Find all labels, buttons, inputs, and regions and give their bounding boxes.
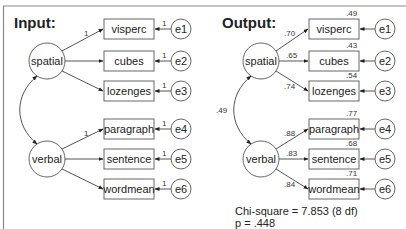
error-weight: 1 bbox=[162, 149, 167, 158]
latent-verbal: verbal bbox=[243, 141, 279, 177]
observed-wordmean: .71 wordmean e6 bbox=[307, 169, 395, 199]
r-squared-value: .71 bbox=[346, 169, 358, 178]
r-squared-value: .77 bbox=[346, 109, 358, 118]
observed-label: wordmean bbox=[102, 183, 154, 195]
latent-label: verbal bbox=[246, 153, 276, 165]
error-label: e2 bbox=[379, 55, 391, 67]
error-label: e3 bbox=[175, 85, 187, 97]
error-weight: 1 bbox=[162, 81, 167, 90]
input-title: Input: bbox=[14, 14, 56, 31]
latent-label: spatial bbox=[31, 55, 63, 67]
error-weight: 1 bbox=[162, 51, 167, 60]
latent-spatial: spatial bbox=[243, 43, 279, 79]
error-label: e3 bbox=[379, 85, 391, 97]
observed-sentence: .68 sentence e5 bbox=[309, 139, 395, 169]
output-panel: Output: spatial verbal .49 .70 .65 .74 .… bbox=[216, 9, 395, 229]
r-squared-value: .54 bbox=[346, 71, 358, 80]
observed-lozenges: lozenges 1 e3 bbox=[104, 81, 191, 101]
r-squared-value: .68 bbox=[346, 139, 358, 148]
latent-label: verbal bbox=[32, 153, 62, 165]
loading-arrow bbox=[62, 169, 103, 189]
observed-label: paragraph bbox=[309, 123, 359, 135]
output-title: Output: bbox=[222, 14, 276, 31]
observed-label: cubes bbox=[114, 55, 144, 67]
loading-value: 1 bbox=[84, 29, 89, 38]
error-weight: 1 bbox=[162, 19, 167, 28]
loading-value: .83 bbox=[286, 149, 298, 158]
loading-value: .84 bbox=[284, 180, 296, 189]
covariance-value: .49 bbox=[216, 106, 228, 115]
error-label: e1 bbox=[175, 23, 187, 35]
observed-label: visperc bbox=[112, 23, 147, 35]
error-label: e4 bbox=[379, 123, 391, 135]
observed-label: sentence bbox=[312, 153, 357, 165]
observed-visperc: visperc 1 e1 bbox=[104, 19, 191, 39]
observed-label: sentence bbox=[107, 153, 152, 165]
latent-verbal: verbal bbox=[29, 141, 65, 177]
sem-diagram-figure: Input: spatial verbal 1 1 visperc 1 e bbox=[0, 0, 406, 229]
p-value-stat: p = .448 bbox=[235, 217, 275, 229]
input-panel: Input: spatial verbal 1 1 visperc 1 e bbox=[14, 14, 191, 199]
observed-visperc: .49 visperc e1 bbox=[309, 9, 395, 39]
loading-value: 1 bbox=[84, 129, 89, 138]
loading-value: .70 bbox=[284, 29, 296, 38]
observed-paragraph: .77 paragraph e4 bbox=[309, 109, 395, 139]
loading-value: .88 bbox=[284, 129, 296, 138]
observed-wordmean: wordmean 1 e6 bbox=[102, 179, 191, 199]
observed-lozenges: .54 lozenges e3 bbox=[309, 71, 395, 101]
r-squared-value: .49 bbox=[346, 9, 358, 18]
observed-label: paragraph bbox=[104, 123, 154, 135]
observed-paragraph: paragraph 1 e4 bbox=[104, 119, 191, 139]
latent-spatial: spatial bbox=[29, 43, 65, 79]
covariance-arrow bbox=[20, 76, 37, 144]
error-weight: 1 bbox=[162, 119, 167, 128]
observed-label: lozenges bbox=[107, 85, 152, 97]
observed-label: cubes bbox=[319, 55, 349, 67]
loading-value: .65 bbox=[286, 51, 298, 60]
observed-cubes: cubes 1 e2 bbox=[104, 51, 191, 71]
loading-arrow bbox=[62, 29, 103, 51]
observed-label: wordmean bbox=[307, 183, 359, 195]
error-label: e4 bbox=[175, 123, 187, 135]
observed-label: visperc bbox=[317, 23, 352, 35]
loading-arrow bbox=[62, 129, 103, 149]
error-label: e5 bbox=[379, 153, 391, 165]
chi-square-stat: Chi-square = 7.853 (8 df) bbox=[235, 205, 358, 217]
observed-sentence: sentence 1 e5 bbox=[104, 149, 191, 169]
latent-label: spatial bbox=[245, 55, 277, 67]
observed-label: lozenges bbox=[312, 85, 357, 97]
error-label: e6 bbox=[379, 183, 391, 195]
error-label: e5 bbox=[175, 153, 187, 165]
r-squared-value: .43 bbox=[346, 41, 358, 50]
error-label: e2 bbox=[175, 55, 187, 67]
error-label: e6 bbox=[175, 183, 187, 195]
error-label: e1 bbox=[379, 23, 391, 35]
loading-value: .74 bbox=[284, 82, 296, 91]
covariance-arrow bbox=[234, 76, 251, 144]
observed-cubes: .43 cubes e2 bbox=[309, 41, 395, 71]
loading-arrow bbox=[62, 71, 103, 91]
error-weight: 1 bbox=[162, 179, 167, 188]
